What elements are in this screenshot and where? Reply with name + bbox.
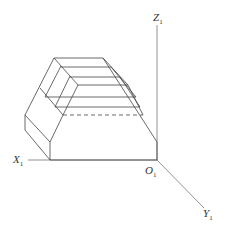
right-slope — [103, 58, 157, 142]
right-step-edge-1 — [103, 58, 128, 85]
axonometric-diagram — [0, 0, 232, 230]
left-end-slope-upper — [63, 85, 78, 115]
left-end-top-edge — [54, 58, 78, 85]
left-end-slope — [50, 115, 63, 142]
origin-label: O1 — [145, 165, 156, 179]
z-axis-label: Z1 — [153, 12, 163, 26]
x-axis-label: X1 — [13, 154, 23, 168]
step-edge-2 — [55, 76, 70, 107]
left-end-mid-edge — [40, 88, 63, 115]
left-end-inner-edge — [25, 115, 50, 142]
y-axis-label: Y1 — [203, 208, 213, 222]
y-axis — [157, 160, 204, 208]
axes — [28, 25, 204, 208]
stepped-prism — [25, 58, 157, 160]
